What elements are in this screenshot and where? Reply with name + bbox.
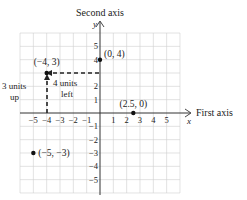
left-label-line1: 4 units [53,78,78,88]
data-point [44,71,48,75]
y-tick-label: 2 [94,81,98,91]
point-label: (2.5, 0) [119,99,147,110]
x-tick-label: −2 [69,115,78,125]
x-tick-label: 1 [111,115,115,125]
y-tick-label: −2 [89,135,98,145]
up-label-line1: 3 units [2,81,27,91]
x-axis-title: First axis [196,107,233,118]
data-point [98,57,102,61]
point-label: (0, 4) [104,49,125,60]
y-tick-label: 1 [94,95,98,105]
x-axis-var: x [186,116,191,126]
x-tick-label: −4 [42,115,52,125]
x-tick-label: 4 [151,115,156,125]
y-tick-label: −3 [89,148,98,158]
data-point [31,151,35,155]
x-tick-label: 2 [125,115,129,125]
left-label-line2: left [61,89,73,99]
y-tick-label: −4 [89,161,99,171]
x-tick-label: 5 [165,115,169,125]
x-tick-labels: −5−4−3−2−112345 [29,115,169,125]
y-axis-var: y [92,19,97,29]
x-tick-label: −5 [29,115,38,125]
point-label: (−4, 3) [34,57,60,68]
y-tick-label: 5 [94,41,98,51]
data-point [131,111,135,115]
y-axis-title: Second axis [76,7,124,18]
up-label-line2: up [10,92,20,102]
coordinate-plane: Second axis y First axis x −5−4−3−2−1123… [0,0,247,200]
x-tick-label: −3 [55,115,64,125]
y-tick-label: −5 [89,175,98,185]
point-label: (−5, −3) [38,148,69,159]
x-tick-label: 3 [138,115,142,125]
y-tick-label: −1 [89,121,98,131]
